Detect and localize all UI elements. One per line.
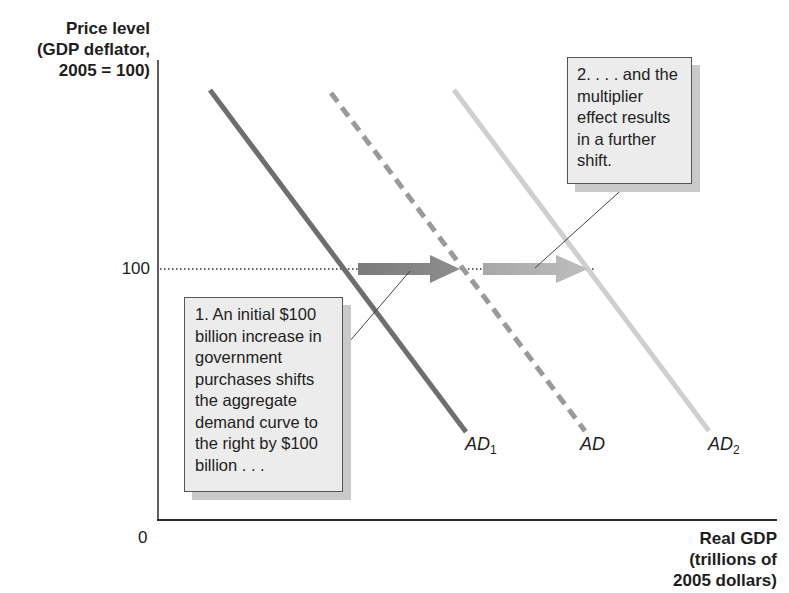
y-axis-label-line: (GDP deflator,: [0, 39, 150, 60]
x-axis-label: Real GDP (trillions of 2005 dollars): [577, 528, 777, 591]
callout-line: the aggregate: [195, 390, 336, 412]
shift-arrow-initial: [358, 255, 460, 283]
callout2-leader-line: [535, 184, 628, 268]
y-axis-label-line: 2005 = 100): [0, 60, 150, 81]
callout-line: multiplier: [577, 86, 685, 108]
y-axis-label-line: Price level: [0, 18, 150, 39]
shift-arrow-multiplier: [483, 255, 588, 283]
curve-label-ad: AD: [580, 434, 605, 455]
callout-line: purchases shifts: [195, 369, 336, 391]
callout-line: shift.: [577, 150, 685, 172]
curve-label-subscript: 2: [733, 443, 740, 457]
x-axis-label-line: (trillions of: [577, 549, 777, 570]
origin-label: 0: [138, 528, 147, 548]
y-tick-100: 100: [105, 259, 150, 279]
callout-line: demand curve to: [195, 412, 336, 434]
curve-label-main: AD: [708, 434, 733, 454]
callout-line: 1. An initial $100: [195, 304, 336, 326]
callout-line: government: [195, 347, 336, 369]
curve-label-main: AD: [580, 434, 605, 454]
x-axis-label-line: 2005 dollars): [577, 570, 777, 591]
callout-line: the right by $100: [195, 433, 336, 455]
callout-line: billion increase in: [195, 326, 336, 348]
y-axis-label: Price level (GDP deflator, 2005 = 100): [0, 18, 150, 81]
x-axis-label-line: Real GDP: [577, 528, 777, 549]
callout-line: 2. . . . and the: [577, 64, 685, 86]
curve-ad: [331, 93, 585, 431]
callout-multiplier-effect: 2. . . . and the multiplier effect resul…: [567, 57, 692, 184]
callout-line: effect results: [577, 107, 685, 129]
curve-label-main: AD: [465, 434, 490, 454]
curve-label-subscript: 1: [490, 443, 497, 457]
callout-initial-shift: 1. An initial $100 billion increase in g…: [184, 297, 343, 492]
curve-label-ad1: AD1: [465, 434, 497, 457]
callout-line: in a further: [577, 129, 685, 151]
callout-line: billion . . .: [195, 455, 336, 477]
curve-label-ad2: AD2: [708, 434, 740, 457]
